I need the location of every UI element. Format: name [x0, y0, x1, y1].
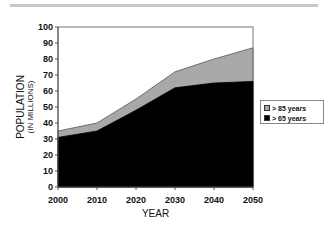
x-tick-label: 2040 — [204, 195, 224, 205]
y-tick-label: 70 — [43, 70, 53, 80]
legend-label-65: > 65 years — [272, 115, 306, 122]
chart-legend: > 85 years > 65 years — [260, 100, 324, 124]
legend-label-85: > 85 years — [272, 105, 306, 112]
y-tick-label: 10 — [43, 166, 53, 176]
legend-item-65: > 65 years — [264, 113, 320, 123]
y-axis-subtitle: (IN MILLIONS) — [26, 80, 35, 133]
y-tick-label: 40 — [43, 118, 53, 128]
y-tick-label: 30 — [43, 134, 53, 144]
x-tick-label: 2020 — [126, 195, 146, 205]
x-tick-label: 2030 — [165, 195, 185, 205]
x-axis-title: YEAR — [142, 208, 169, 219]
y-tick-label: 60 — [43, 86, 53, 96]
legend-swatch-65 — [264, 115, 270, 121]
x-tick-label: 2010 — [87, 195, 107, 205]
legend-item-85: > 85 years — [264, 103, 320, 113]
y-tick-label: 20 — [43, 150, 53, 160]
legend-swatch-85 — [264, 105, 270, 111]
y-tick-label: 90 — [43, 38, 53, 48]
y-tick-label: 50 — [43, 102, 53, 112]
x-tick-label: 2050 — [243, 195, 263, 205]
x-tick-label: 2000 — [48, 195, 68, 205]
y-tick-label: 0 — [48, 182, 53, 192]
y-axis-title: POPULATION — [15, 75, 26, 139]
y-tick-label: 100 — [38, 22, 53, 32]
y-tick-label: 80 — [43, 54, 53, 64]
